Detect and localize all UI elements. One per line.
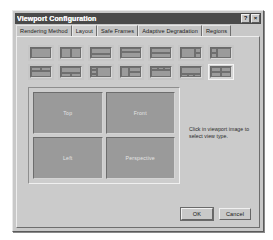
layout-preset-row-1: [28, 45, 234, 61]
layout-preset-left-stack-right-wide[interactable]: [88, 64, 114, 80]
viewport-cell-front[interactable]: Front: [106, 92, 176, 134]
layout-preset-top-split-bottom-wide[interactable]: [28, 64, 54, 80]
dialog-button-row: OK Cancel: [181, 208, 251, 220]
layout-preset-two-horizontal-equal[interactable]: [148, 45, 174, 61]
close-icon[interactable]: ×: [251, 14, 260, 23]
viewport-configuration-dialog: Viewport Configuration ? × Rendering Met…: [12, 10, 264, 232]
viewport-label-left: Left: [63, 155, 72, 161]
layout-preset-left-large-right-split[interactable]: [178, 45, 204, 61]
hint-text: Click in viewport image to select view t…: [189, 126, 251, 140]
window-title: Viewport Configuration: [17, 13, 241, 24]
ok-button[interactable]: OK: [181, 208, 213, 220]
viewport-preview: Top Front Left Perspective: [28, 87, 180, 184]
help-icon[interactable]: ?: [241, 14, 250, 23]
layout-preset-two-horizontal-thin-top[interactable]: [118, 45, 144, 61]
viewport-preview-grid: Top Front Left Perspective: [33, 92, 175, 179]
layout-preset-top-wide-bottom-split[interactable]: [58, 64, 84, 80]
viewport-label-perspective: Perspective: [126, 155, 155, 161]
viewport-label-front: Front: [134, 110, 147, 116]
layout-preset-row-2: [28, 64, 234, 80]
layout-preset-four-quadrant[interactable]: [208, 64, 234, 80]
layout-tab-panel: Top Front Left Perspective Click in view…: [16, 36, 260, 228]
screen: Viewport Configuration ? × Rendering Met…: [0, 0, 273, 240]
layout-preset-left-narrow-right-stack[interactable]: [118, 64, 144, 80]
layout-preset-three-top-one-bottom[interactable]: [148, 64, 174, 80]
layout-preset-single[interactable]: [28, 45, 54, 61]
layout-preset-two-horizontal-small-top[interactable]: [88, 45, 114, 61]
viewport-cell-perspective[interactable]: Perspective: [106, 137, 176, 179]
viewport-cell-top[interactable]: Top: [33, 92, 103, 134]
cancel-button[interactable]: Cancel: [219, 208, 251, 220]
title-bar-buttons: ? ×: [241, 14, 260, 23]
layout-preset-right-large-left-split[interactable]: [208, 45, 234, 61]
layout-preset-grid: [28, 45, 234, 83]
title-bar[interactable]: Viewport Configuration ? ×: [15, 13, 261, 24]
layout-preset-one-top-three-bottom[interactable]: [178, 64, 204, 80]
layout-preset-two-vertical[interactable]: [58, 45, 84, 61]
viewport-label-top: Top: [63, 110, 72, 116]
viewport-cell-left[interactable]: Left: [33, 137, 103, 179]
